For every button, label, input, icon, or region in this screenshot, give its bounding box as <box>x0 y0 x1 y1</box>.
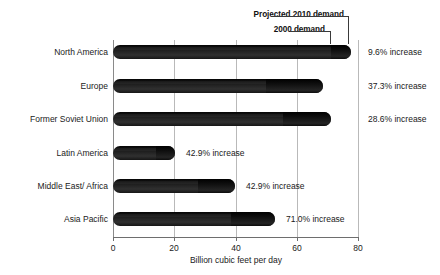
gridline-60 <box>297 40 298 237</box>
gridline-80 <box>358 40 359 237</box>
bar-tip-projected <box>231 212 275 226</box>
leader-line-projected-horizontal <box>272 16 348 17</box>
bar-row: Asia Pacific 71.0% increase <box>0 211 440 227</box>
bar-europe <box>113 79 323 93</box>
bar-north-america <box>113 45 351 59</box>
pct-increase-label: 42.9% increase <box>186 145 245 161</box>
category-label: Former Soviet Union <box>0 111 108 127</box>
bar-tip-projected <box>156 146 175 160</box>
category-label: Middle East/ Africa <box>0 178 108 194</box>
category-label: Latin America <box>0 145 108 161</box>
leader-line-2000-horizontal <box>290 31 330 32</box>
tick-40 <box>236 237 237 241</box>
bar-tip-projected <box>331 45 351 59</box>
category-label: Asia Pacific <box>0 211 108 227</box>
category-label: Europe <box>0 78 108 94</box>
bar-row: Latin America 42.9% increase <box>0 145 440 161</box>
tick-80 <box>358 237 359 241</box>
tick-label-60: 60 <box>292 243 301 253</box>
category-label: North America <box>0 44 108 60</box>
callout-2000-demand: 2000 demand <box>274 25 325 34</box>
tick-60 <box>297 237 298 241</box>
bar-tip-projected <box>266 79 323 93</box>
gridline-20 <box>174 40 175 237</box>
bar-row: North America 9.6% increase <box>0 44 440 60</box>
pct-increase-label: 28.6% increase <box>368 111 427 127</box>
tick-label-0: 0 <box>111 243 116 253</box>
bar-asia-pacific <box>113 212 275 226</box>
pct-increase-label: 71.0% increase <box>286 211 345 227</box>
tick-label-20: 20 <box>169 243 178 253</box>
bar-latin-america <box>113 146 175 160</box>
tick-20 <box>174 237 175 241</box>
bar-row: Former Soviet Union 28.6% increase <box>0 111 440 127</box>
bar-middle-east-africa <box>113 179 235 193</box>
bar-chart: Projected 2010 demand 2000 demand North … <box>0 0 440 275</box>
bar-tip-projected <box>198 179 235 193</box>
pct-increase-label: 37.3% increase <box>368 78 427 94</box>
bar-row: Middle East/ Africa 42.9% increase <box>0 178 440 194</box>
x-axis-title: Billion cubic feet per day <box>113 255 359 265</box>
gridline-40 <box>236 40 237 237</box>
plot-area <box>113 40 358 237</box>
callout-projected-2010-demand: Projected 2010 demand <box>254 10 344 19</box>
pct-increase-label: 42.9% increase <box>246 178 305 194</box>
tick-label-40: 40 <box>231 243 240 253</box>
bar-row: Europe 37.3% increase <box>0 78 440 94</box>
tick-label-80: 80 <box>353 243 362 253</box>
bar-sheen <box>113 47 351 50</box>
tick-0 <box>113 237 114 241</box>
pct-increase-label: 9.6% increase <box>368 44 422 60</box>
bar-tip-projected <box>283 112 331 126</box>
bar-former-soviet-union <box>113 112 331 126</box>
gridline-0 <box>113 40 114 237</box>
